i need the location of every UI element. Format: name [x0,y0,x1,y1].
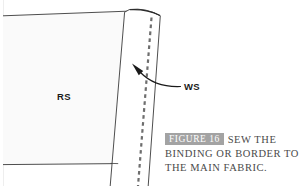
wrong-side-label: WS [184,81,200,92]
figure-caption: FIGURE 16SEW THE BINDING OR BORDER TO TH… [165,133,299,175]
right-side-label: RS [57,91,71,102]
caption-line-3: THE MAIN FABRIC. [165,161,299,175]
caption-line-1: FIGURE 16SEW THE [165,133,299,147]
sewing-figure: RS WS FIGURE 16SEW THE BINDING OR BORDER… [0,0,301,186]
caption-line-2: BINDING OR BORDER TO [165,147,299,161]
figure-number-badge: FIGURE 16 [165,133,224,145]
main-fabric-panel [3,11,127,164]
caption-text-1: SEW THE [228,134,277,145]
